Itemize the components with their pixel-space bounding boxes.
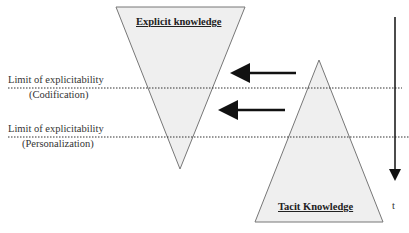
- limit-personalization-sublabel: (Personalization): [22, 138, 94, 149]
- limit-codification-label: Limit of explicitability: [8, 74, 104, 85]
- time-label: t: [392, 200, 395, 211]
- limit-codification-sublabel: (Codification): [29, 89, 88, 100]
- explicit-knowledge-label: Explicit knowledge: [136, 16, 221, 27]
- tacit-knowledge-triangle: [255, 60, 383, 222]
- tacit-knowledge-label: Tacit Knowledge: [278, 201, 353, 212]
- limit-personalization-label: Limit of explicitability: [8, 123, 104, 134]
- diagram-canvas: [0, 0, 409, 233]
